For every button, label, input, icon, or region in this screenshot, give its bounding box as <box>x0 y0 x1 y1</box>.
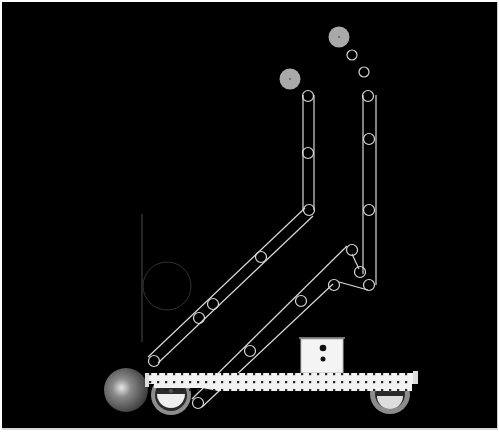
roller <box>347 50 357 60</box>
robot-scene <box>2 2 497 428</box>
control-box <box>299 338 345 373</box>
simulation-viewport[interactable] <box>2 2 498 430</box>
faint-guide-circle <box>143 262 191 310</box>
chassis <box>145 371 418 391</box>
right-vertical-conveyor <box>363 91 377 286</box>
bumper-sphere <box>104 368 148 412</box>
roller <box>359 67 369 77</box>
left-vertical-conveyor <box>303 91 315 216</box>
upper-diagonal-conveyor <box>148 208 313 367</box>
